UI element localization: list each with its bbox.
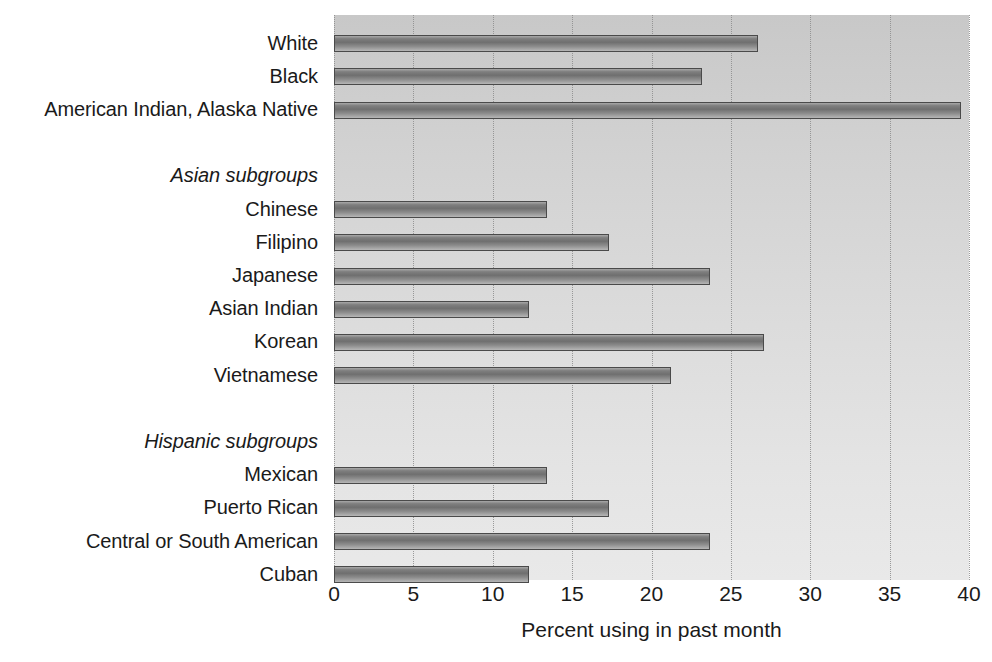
category-label: Puerto Rican: [204, 496, 318, 518]
x-tick-label: 20: [640, 582, 663, 606]
plot-area: [334, 15, 969, 580]
x-tick-label: 30: [799, 582, 822, 606]
x-tick-label: 25: [719, 582, 742, 606]
gridline: [334, 15, 336, 580]
x-tick-label: 5: [408, 582, 420, 606]
category-label: Japanese: [232, 264, 318, 286]
category-group-header: Asian subgroups: [171, 164, 319, 186]
gridline: [493, 15, 495, 580]
category-label: Asian Indian: [209, 297, 318, 319]
x-tick-label: 40: [957, 582, 980, 606]
bar: [334, 533, 710, 550]
bar: [334, 201, 547, 218]
x-tick-label: 35: [878, 582, 901, 606]
category-group-header: Hispanic subgroups: [144, 430, 318, 452]
x-axis-ticks: 0510152025303540: [334, 582, 969, 612]
gridline: [413, 15, 415, 580]
gridline: [652, 15, 654, 580]
bar: [334, 566, 529, 583]
bar-chart: WhiteBlackAmerican Indian, Alaska Native…: [0, 0, 992, 662]
gridline: [731, 15, 733, 580]
gridline: [969, 15, 971, 580]
bar: [334, 35, 758, 52]
bar: [334, 234, 609, 251]
bar: [334, 500, 609, 517]
bar: [334, 268, 710, 285]
x-tick-label: 15: [560, 582, 583, 606]
gridline: [810, 15, 812, 580]
category-label: American Indian, Alaska Native: [44, 98, 318, 120]
bar: [334, 301, 529, 318]
category-label: White: [267, 32, 318, 54]
category-label: Central or South American: [86, 530, 318, 552]
bar: [334, 334, 764, 351]
bar: [334, 367, 671, 384]
x-axis-title: Percent using in past month: [334, 618, 969, 642]
category-label: Chinese: [245, 198, 318, 220]
category-axis-labels: WhiteBlackAmerican Indian, Alaska Native…: [0, 15, 326, 580]
x-tick-label: 10: [481, 582, 504, 606]
bar: [334, 467, 547, 484]
category-label: Black: [270, 65, 318, 87]
bar: [334, 68, 702, 85]
category-label: Cuban: [260, 563, 318, 585]
category-label: Filipino: [255, 231, 318, 253]
x-tick-label: 0: [328, 582, 340, 606]
category-label: Mexican: [244, 463, 318, 485]
gridline: [572, 15, 574, 580]
bar: [334, 102, 961, 119]
category-label: Korean: [254, 330, 318, 352]
category-label: Vietnamese: [214, 364, 318, 386]
gridline: [890, 15, 892, 580]
